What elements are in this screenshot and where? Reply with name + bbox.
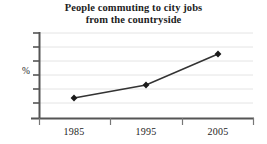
y-axis-label: %: [8, 66, 30, 76]
chart-figure: People commuting to city jobs from the c…: [0, 0, 267, 144]
x-tick-label-1985: 1985: [50, 126, 98, 137]
gridlines: [39, 33, 253, 103]
plot-area: [0, 0, 267, 144]
data-point-1985: [71, 95, 78, 102]
data-point-1995: [143, 82, 150, 89]
data-point-2005: [215, 51, 222, 58]
x-tick-label-1995: 1995: [122, 126, 170, 137]
x-tick-label-2005: 2005: [194, 126, 242, 137]
